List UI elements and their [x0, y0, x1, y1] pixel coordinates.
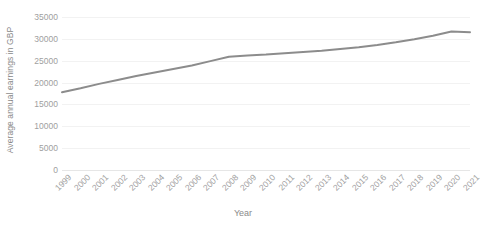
x-tick-label-2015: 2015 — [350, 173, 369, 192]
x-tick-label-2006: 2006 — [183, 173, 202, 192]
y-tick-label-15000: 15000 — [18, 100, 58, 109]
x-tick-label-2002: 2002 — [109, 173, 128, 192]
y-tick-label-5000: 5000 — [18, 144, 58, 153]
x-tick-label-2012: 2012 — [295, 173, 314, 192]
series-polyline — [62, 31, 470, 92]
x-tick-label-2010: 2010 — [258, 173, 277, 192]
y-tick-label-35000: 35000 — [18, 13, 58, 22]
x-axis-title: Year — [0, 208, 486, 218]
line-chart: Average annual earnings in GBP 050001000… — [0, 0, 486, 233]
x-tick-label-2020: 2020 — [443, 173, 462, 192]
y-tick-label-0: 0 — [18, 166, 58, 175]
x-tick-label-2013: 2013 — [313, 173, 332, 192]
x-tick-label-2004: 2004 — [146, 173, 165, 192]
x-tick-label-2018: 2018 — [406, 173, 425, 192]
x-tick-label-2017: 2017 — [387, 173, 406, 192]
x-tick-label-2008: 2008 — [221, 173, 240, 192]
x-tick-label-2011: 2011 — [277, 173, 296, 192]
plot-area — [62, 17, 470, 170]
series-line-earnings — [62, 17, 470, 170]
y-axis-title-label: Average annual earnings in GBP — [5, 27, 15, 154]
x-tick-label-2014: 2014 — [332, 173, 351, 192]
x-tick-label-2007: 2007 — [202, 173, 221, 192]
y-axis-title: Average annual earnings in GBP — [0, 0, 20, 180]
y-tick-label-25000: 25000 — [18, 56, 58, 65]
x-tick-label-2000: 2000 — [72, 173, 91, 192]
x-tick-label-2019: 2019 — [425, 173, 444, 192]
y-axis-tick-labels: 05000100001500020000250003000035000 — [18, 0, 58, 233]
y-tick-label-20000: 20000 — [18, 78, 58, 87]
x-tick-label-2016: 2016 — [369, 173, 388, 192]
x-tick-label-2001: 2001 — [91, 173, 110, 192]
x-tick-label-2021: 2021 — [462, 173, 481, 192]
x-axis-tick-labels: 1999200020012002200320042005200620072008… — [62, 170, 470, 210]
y-tick-label-10000: 10000 — [18, 122, 58, 131]
y-tick-label-30000: 30000 — [18, 35, 58, 44]
x-tick-label-2009: 2009 — [239, 173, 258, 192]
x-tick-label-2005: 2005 — [165, 173, 184, 192]
x-axis-title-label: Year — [234, 208, 252, 218]
x-tick-label-2003: 2003 — [128, 173, 147, 192]
